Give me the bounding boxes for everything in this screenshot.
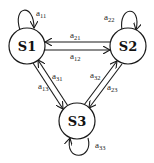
state-s3: S3 [59,103,95,139]
state-s3-label: S3 [68,114,86,129]
edge-a33 [69,138,89,155]
label-a22: a22 [104,12,115,23]
edge-a11 [18,10,34,30]
label-a32: a32 [90,70,101,81]
label-a23: a23 [107,82,118,93]
label-a11: a11 [36,8,46,19]
label-a31: a31 [52,71,63,82]
edge-a31 [38,60,68,106]
label-a13: a13 [38,81,49,92]
label-a33: a33 [95,140,106,151]
edge-a32 [84,61,117,105]
edge-a22 [122,11,137,30]
state-s2: S2 [110,28,146,64]
state-s2-label: S2 [119,39,137,54]
label-a21: a21 [70,30,81,41]
state-diagram: S1 S2 S3 a11 a22 a33 a21 a12 a31 a13 a32… [0,0,154,163]
state-s1: S1 [9,28,45,64]
label-a12: a12 [70,51,81,62]
state-s1-label: S1 [18,39,36,54]
